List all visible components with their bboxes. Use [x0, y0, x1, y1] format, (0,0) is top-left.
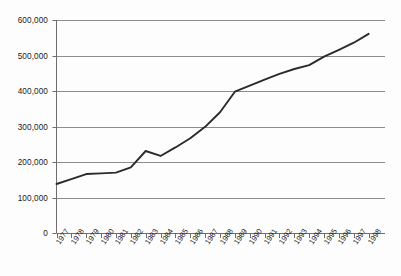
- y-axis-tick-label: 600,000: [0, 16, 48, 25]
- y-axis-tick-label: 100,000: [0, 193, 48, 202]
- y-axis-tick-label: 400,000: [0, 87, 48, 96]
- y-axis-tick-label: 0: [0, 229, 48, 238]
- y-axis-tick-label: 300,000: [0, 122, 48, 131]
- y-axis-tick-label: 200,000: [0, 158, 48, 167]
- gridlines-group: [57, 21, 386, 199]
- y-axis-tick-label: 500,000: [0, 51, 48, 60]
- line-chart: 0100,000200,000300,000400,000500,000600,…: [0, 0, 401, 276]
